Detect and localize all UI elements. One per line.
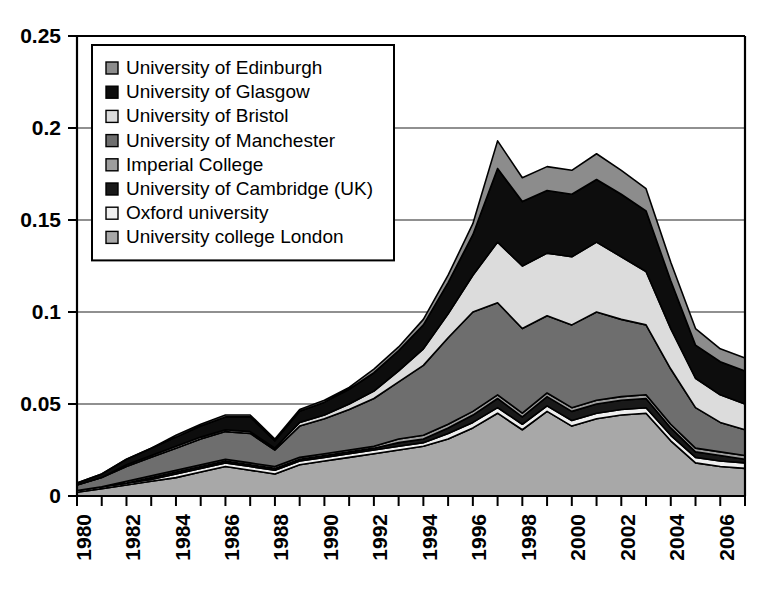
x-tick-label: 2000 [566,514,589,561]
x-tick-label: 1986 [220,514,243,561]
y-tick-label: 0.2 [32,116,61,139]
x-tick-label: 1980 [72,514,95,561]
legend-item[interactable]: University of Bristol [106,105,289,126]
x-tick-label: 1996 [467,514,490,561]
legend-label: Oxford university [126,202,269,223]
y-tick-label: 0.15 [20,208,61,231]
legend-item[interactable]: University of Edinburgh [106,57,322,78]
legend-swatch [106,231,118,243]
y-tick-label: 0.25 [20,24,61,47]
legend-swatch [106,183,118,195]
stacked-area-chart: 00.050.10.150.20.25 19801982198419861988… [0,0,776,592]
legend-label: University of Bristol [126,105,289,126]
x-tick-label: 1984 [171,514,194,561]
legend-swatch [106,159,118,171]
legend-label: University college London [126,226,344,247]
y-tick-label: 0.1 [32,300,62,323]
x-tick-label: 2006 [715,514,738,561]
legend-item[interactable]: Imperial College [106,154,263,175]
x-tick-label: 1992 [368,514,391,561]
legend-item[interactable]: University of Manchester [106,130,336,151]
x-tick-label: 2004 [665,514,688,561]
legend-label: University of Manchester [126,130,336,151]
y-tick-label: 0 [49,484,61,507]
chart-canvas: 00.050.10.150.20.25 19801982198419861988… [0,0,776,592]
x-tick-label: 1988 [269,514,292,561]
chart-legend: University of EdinburghUniversity of Gla… [92,45,394,260]
legend-label: University of Cambridge (UK) [126,178,373,199]
legend-label: University of Edinburgh [126,57,322,78]
legend-label: Imperial College [126,154,263,175]
legend-item[interactable]: University college London [106,226,344,247]
legend-swatch [106,86,118,98]
legend-swatch [106,207,118,219]
legend-label: University of Glasgow [126,81,310,102]
legend-swatch [106,135,118,147]
legend-swatch [106,110,118,122]
x-tick-label: 1982 [121,514,144,561]
legend-item[interactable]: University of Cambridge (UK) [106,178,373,199]
x-tick-label: 1990 [319,514,342,561]
legend-item[interactable]: University of Glasgow [106,81,310,102]
x-tick-label: 1994 [418,514,441,561]
x-tick-label: 1998 [517,514,540,561]
legend-swatch [106,62,118,74]
x-tick-label: 2002 [616,514,639,561]
legend-item[interactable]: Oxford university [106,202,269,223]
y-tick-label: 0.05 [20,392,61,415]
